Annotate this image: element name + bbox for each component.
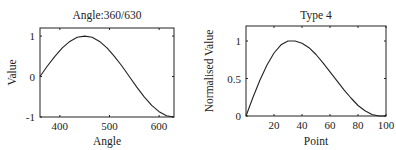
y-tick-label: 1 [236,35,242,47]
plot-frame [40,28,174,117]
y-axis-label: Value [6,59,18,85]
x-tick-label: 60 [325,119,337,131]
y-tick-label: 0.5 [227,73,241,85]
x-axis-label: Point [304,135,329,147]
data-line [40,36,174,117]
chart-title: Angle:360/630 [73,9,142,22]
x-tick-label: 100 [378,119,395,131]
y-axis-label: Normalised Value [203,30,215,113]
data-line [246,41,386,116]
x-tick-label: 40 [297,119,309,131]
x-axis-label: Angle [93,135,121,148]
plot-frame [246,26,386,116]
chart-right-svg: Type 42040608010000.51PointNormalised Va… [198,0,396,150]
chart-title: Type 4 [300,9,332,22]
y-tick-label: -1 [26,111,35,123]
x-tick-label: 600 [151,120,168,132]
y-tick-label: 0 [236,110,242,122]
y-tick-label: 0 [30,71,36,83]
x-tick-label: 400 [52,120,69,132]
chart-left-svg: Angle:360/630400500600-101AngleValue [0,0,198,150]
y-tick-label: 1 [30,30,36,42]
chart-right: Type 42040608010000.51PointNormalised Va… [198,0,396,150]
x-tick-label: 500 [101,120,118,132]
x-tick-label: 80 [353,119,365,131]
chart-left: Angle:360/630400500600-101AngleValue [0,0,198,150]
x-tick-label: 20 [269,119,281,131]
